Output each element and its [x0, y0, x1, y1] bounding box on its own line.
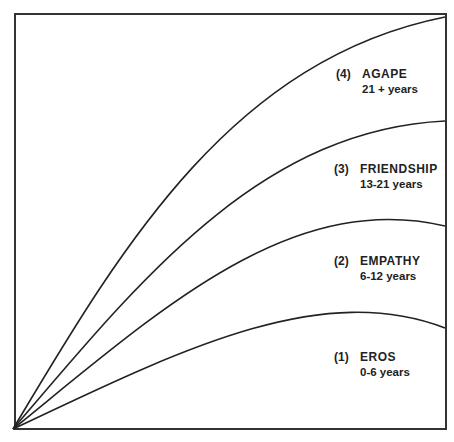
stage-label-eros: (1)EROS 0-6 years [334, 350, 410, 380]
stage-name: EMPATHY [360, 254, 420, 268]
stage-number: (1) [334, 350, 360, 365]
stage-years: 21 + years [336, 82, 418, 97]
curve-empathy [13, 220, 445, 429]
stage-number: (4) [336, 67, 362, 82]
stage-years: 6-12 years [334, 269, 420, 284]
stage-number: (2) [334, 254, 360, 269]
stage-label-agape: (4)AGAPE 21 + years [336, 67, 418, 97]
stage-label-friendship: (3)FRIENDSHIP 13-21 years [334, 162, 438, 192]
stage-number: (3) [334, 162, 360, 177]
stage-label-empathy: (2)EMPATHY 6-12 years [334, 254, 420, 284]
stage-years: 0-6 years [334, 365, 410, 380]
stage-name: FRIENDSHIP [360, 162, 438, 176]
stage-name: AGAPE [362, 67, 407, 81]
stage-name: EROS [360, 350, 396, 364]
stage-years: 13-21 years [334, 177, 438, 192]
